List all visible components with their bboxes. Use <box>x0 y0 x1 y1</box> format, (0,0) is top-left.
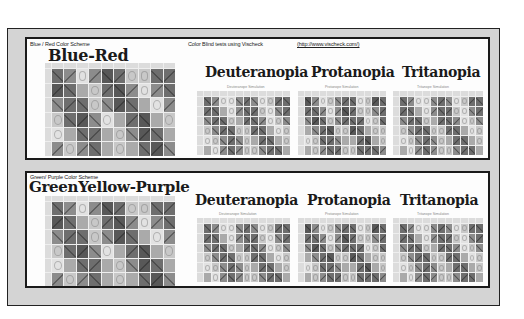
matrix-cell <box>64 202 75 215</box>
matrix-header-cell <box>275 91 282 96</box>
matrix-cell <box>305 146 311 155</box>
matrix-header-cell <box>259 91 266 96</box>
matrix-cell <box>267 253 274 262</box>
matrix-cell <box>305 97 311 106</box>
matrix-cell <box>251 253 258 262</box>
matrix-header-cell <box>220 218 227 223</box>
matrix-header-cell <box>251 91 258 96</box>
matrix-cell <box>114 84 125 98</box>
matrix-cell <box>151 259 162 272</box>
matrix-cell <box>204 107 211 116</box>
matrix-cell <box>275 97 282 106</box>
matrix-cell <box>380 224 386 233</box>
matrix-cell <box>228 263 235 272</box>
matrix-cell <box>469 224 476 233</box>
matrix-cell <box>151 113 162 127</box>
matrix-row-label <box>45 202 51 215</box>
matrix-cell <box>400 126 407 135</box>
matrix-cell <box>228 273 235 282</box>
matrix-header-cell <box>320 91 326 96</box>
matrix-cell <box>461 136 468 145</box>
matrix-cell <box>236 117 243 126</box>
matrix-header-cell <box>151 63 162 68</box>
matrix-cell <box>275 253 282 262</box>
matrix-cell <box>431 107 438 116</box>
matrix-cell <box>415 107 422 116</box>
blue-red-panel: Blue / Red Color Scheme Blue-Red Color B… <box>25 37 490 160</box>
matrix-cell <box>305 107 311 116</box>
matrix-cell <box>259 107 266 116</box>
matrix-cell <box>365 136 371 145</box>
matrix-cell <box>139 259 150 272</box>
matrix-cell <box>204 136 211 145</box>
matrix-cell <box>335 146 341 155</box>
matrix-cell <box>446 224 453 233</box>
vischeck-link[interactable]: (http://www.vischeck.com/) <box>297 41 360 47</box>
matrix-cell <box>102 84 113 98</box>
tritanopia-matrix <box>393 91 483 155</box>
matrix-cell <box>283 253 290 262</box>
matrix-cell <box>312 263 318 272</box>
matrix-cell <box>139 113 150 127</box>
matrix-cell <box>164 245 175 258</box>
matrix-cell <box>446 126 453 135</box>
matrix-cell <box>476 263 483 272</box>
matrix-row-label <box>298 97 304 106</box>
matrix-cell <box>102 259 113 272</box>
matrix-cell <box>423 117 430 126</box>
matrix-cell <box>453 253 460 262</box>
matrix-cell <box>372 273 378 282</box>
tritanopia-subtitle: Tritanope Simulation <box>417 212 449 216</box>
matrix-cell <box>151 202 162 215</box>
matrix-cell <box>431 253 438 262</box>
matrix-header-cell <box>89 63 100 68</box>
matrix-row-label <box>45 245 51 258</box>
matrix-cell <box>267 234 274 243</box>
matrix-cell <box>228 117 235 126</box>
matrix-cell <box>320 244 326 253</box>
matrix-cell <box>126 216 137 229</box>
matrix-cell <box>212 117 219 126</box>
matrix-cell <box>320 146 326 155</box>
matrix-cell <box>335 117 341 126</box>
matrix-header-cell <box>298 218 304 223</box>
matrix-cell <box>275 126 282 135</box>
matrix-header-cell <box>64 196 75 201</box>
matrix-cell <box>431 126 438 135</box>
matrix-cell <box>431 224 438 233</box>
correlation-matrix <box>45 196 175 286</box>
matrix-header-cell <box>342 218 348 223</box>
matrix-cell <box>89 98 100 112</box>
matrix-cell <box>228 136 235 145</box>
matrix-cell <box>408 97 415 106</box>
matrix-cell <box>408 273 415 282</box>
matrix-cell <box>438 146 445 155</box>
matrix-cell <box>251 136 258 145</box>
matrix-cell <box>357 97 363 106</box>
matrix-cell <box>251 273 258 282</box>
matrix-cell <box>164 259 175 272</box>
matrix-row-label <box>45 230 51 243</box>
matrix-cell <box>52 259 63 272</box>
matrix-cell <box>151 69 162 83</box>
matrix-cell <box>212 107 219 116</box>
matrix-cell <box>372 97 378 106</box>
matrix-cell <box>267 117 274 126</box>
matrix-header-cell <box>267 218 274 223</box>
matrix-cell <box>365 253 371 262</box>
matrix-cell <box>89 230 100 243</box>
matrix-cell <box>446 107 453 116</box>
matrix-cell <box>164 69 175 83</box>
matrix-header-cell <box>102 196 113 201</box>
matrix-cell <box>350 97 356 106</box>
matrix-cell <box>236 126 243 135</box>
matrix-cell <box>380 263 386 272</box>
matrix-header-cell <box>164 196 175 201</box>
matrix-cell <box>400 117 407 126</box>
matrix-cell <box>342 253 348 262</box>
matrix-cell <box>453 263 460 272</box>
matrix-cell <box>365 117 371 126</box>
matrix-header-cell <box>236 218 243 223</box>
matrix-header-cell <box>244 218 251 223</box>
matrix-cell <box>220 146 227 155</box>
